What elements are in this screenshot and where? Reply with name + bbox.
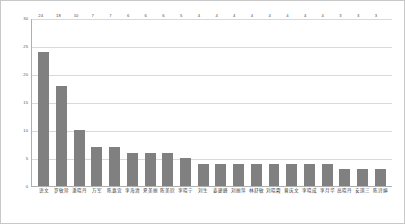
bar[interactable]: 3 (357, 169, 368, 186)
x-axis-category-label: 罗敏珍 (54, 189, 69, 194)
bar-value-label: 6 (145, 14, 147, 18)
bar-column[interactable]: 3 (371, 19, 389, 186)
y-axis-tick-label: 0 (26, 185, 28, 189)
x-axis (31, 186, 392, 187)
bar[interactable]: 18 (56, 86, 67, 186)
bar[interactable]: 7 (91, 147, 102, 186)
x-axis-label-cell: 林舒敏 (247, 189, 265, 221)
bar[interactable]: 10 (74, 130, 85, 186)
bar[interactable]: 6 (127, 153, 138, 186)
bar-value-label: 4 (322, 14, 324, 18)
x-axis-label-cell: 刘丽萍 (230, 189, 248, 221)
bar-column[interactable]: 3 (354, 19, 372, 186)
bar[interactable]: 4 (251, 164, 262, 186)
bar-column[interactable]: 4 (230, 19, 248, 186)
bar-column[interactable]: 4 (318, 19, 336, 186)
bar-column[interactable]: 18 (53, 19, 71, 186)
bar[interactable]: 4 (286, 164, 297, 186)
bar-value-label: 5 (180, 14, 182, 18)
x-axis-category-label: 林舒敏 (249, 189, 264, 194)
bar-column[interactable]: 4 (265, 19, 283, 186)
x-axis-category-label: 陈嘉宜 (107, 189, 122, 194)
bar-value-label: 4 (304, 14, 306, 18)
y-axis-tick-label: 10 (23, 129, 28, 133)
x-axis-category-label: 潘晓丹 (72, 189, 87, 194)
bar-value-label: 18 (56, 14, 61, 18)
x-axis-label-cell: 李晓成 (301, 189, 319, 221)
bar[interactable]: 4 (322, 164, 333, 186)
bar-value-label: 7 (91, 14, 93, 18)
bar-column[interactable]: 4 (283, 19, 301, 186)
x-axis-label-cell: 刘晓霞 (265, 189, 283, 221)
x-axis-label-cell: 曾庆文 (283, 189, 301, 221)
x-axis-label-cell: 姜建峰 (212, 189, 230, 221)
bar-value-label: 6 (127, 14, 129, 18)
bar-column[interactable]: 4 (194, 19, 212, 186)
bar-series: 24181077666544444444333 (32, 19, 392, 186)
x-axis-category-label: 姜建峰 (213, 189, 228, 194)
x-axis-label-cell: 罗敏珍 (53, 189, 71, 221)
bar-value-label: 4 (198, 14, 200, 18)
bar-column[interactable]: 4 (212, 19, 230, 186)
y-axis-tick-label: 15 (23, 101, 28, 105)
x-axis-category-label: 夏美丽 (143, 189, 158, 194)
x-axis-category-label: 刘晓霞 (266, 189, 281, 194)
bar-column[interactable]: 24 (35, 19, 53, 186)
bar-value-label: 4 (233, 14, 235, 18)
x-axis-category-label: 高晓丹 (337, 189, 352, 194)
bar[interactable]: 4 (233, 164, 244, 186)
x-axis-label-cell: 夏美丽 (141, 189, 159, 221)
y-axis-tick-label: 30 (23, 17, 28, 21)
bar-column[interactable]: 5 (177, 19, 195, 186)
x-axis-category-label: 曾庆文 (284, 189, 299, 194)
bar-column[interactable]: 4 (247, 19, 265, 186)
bar-column[interactable]: 6 (159, 19, 177, 186)
bar[interactable]: 4 (198, 164, 209, 186)
bar[interactable]: 4 (269, 164, 280, 186)
x-axis-category-label: 李月华 (320, 189, 335, 194)
bar[interactable]: 6 (162, 153, 173, 186)
x-axis-label-cell: 潘晓丹 (70, 189, 88, 221)
x-axis-category-label: 语文 (39, 189, 49, 194)
x-axis-label-cell: 高晓丹 (336, 189, 354, 221)
bar-column[interactable]: 7 (106, 19, 124, 186)
bar[interactable]: 24 (38, 52, 49, 186)
bar-value-label: 24 (38, 14, 43, 18)
bar-value-label: 3 (339, 14, 341, 18)
bar-column[interactable]: 6 (124, 19, 142, 186)
bar[interactable]: 7 (109, 147, 120, 186)
x-axis-category-label: 刘丽萍 (231, 189, 246, 194)
y-axis-tick-label: 20 (23, 73, 28, 77)
bar-value-label: 4 (269, 14, 271, 18)
bar-value-label: 4 (286, 14, 288, 18)
bar-column[interactable]: 4 (301, 19, 319, 186)
bar-value-label: 3 (375, 14, 377, 18)
bar[interactable]: 5 (180, 158, 191, 186)
x-axis-category-label: 万军 (92, 189, 102, 194)
bar[interactable]: 4 (215, 164, 226, 186)
x-axis-label-cell: 万军 (88, 189, 106, 221)
bar-value-label: 10 (74, 14, 79, 18)
bar[interactable]: 4 (304, 164, 315, 186)
x-axis-label-cell: 李晓宁 (177, 189, 195, 221)
bar-value-label: 3 (357, 14, 359, 18)
x-axis-category-label: 陈美欣 (160, 189, 175, 194)
plot-area: 30 25 20 15 10 5 0 241810776665444444443… (31, 19, 392, 187)
x-axis-category-label: 李晓宁 (178, 189, 193, 194)
y-axis-tick-label: 25 (23, 45, 28, 49)
bar-value-label: 6 (162, 14, 164, 18)
bar-column[interactable]: 6 (141, 19, 159, 186)
bar-column[interactable]: 7 (88, 19, 106, 186)
x-axis-category-label: 刘生 (198, 189, 208, 194)
bar-value-label: 7 (109, 14, 111, 18)
bar-column[interactable]: 3 (336, 19, 354, 186)
chart-container: 30 25 20 15 10 5 0 241810776665444444443… (0, 0, 405, 224)
bar[interactable]: 3 (339, 169, 350, 186)
bar-value-label: 4 (251, 14, 253, 18)
bar-column[interactable]: 10 (70, 19, 88, 186)
x-axis-label-cell: 刘生 (194, 189, 212, 221)
bar[interactable]: 6 (145, 153, 156, 186)
x-axis-label-cell: 陈嘉宜 (106, 189, 124, 221)
bar[interactable]: 3 (375, 169, 386, 186)
x-axis-label-cell: 李月华 (318, 189, 336, 221)
